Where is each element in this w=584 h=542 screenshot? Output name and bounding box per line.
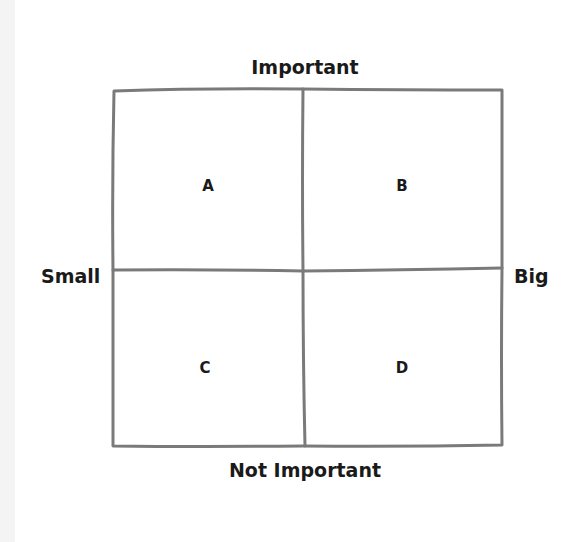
quadrant-label-b: B — [387, 177, 417, 195]
grid-vertical-divider — [303, 89, 306, 446]
axis-label-bottom: Not Important — [0, 459, 584, 481]
quadrant-label-d: D — [387, 359, 417, 377]
axis-label-right: Big — [514, 265, 549, 287]
axis-label-left: Small — [41, 265, 100, 287]
grid-horizontal-divider — [113, 268, 502, 271]
quadrant-label-a: A — [193, 177, 223, 195]
quadrant-label-c: C — [190, 359, 220, 377]
axis-label-top: Important — [0, 56, 584, 78]
